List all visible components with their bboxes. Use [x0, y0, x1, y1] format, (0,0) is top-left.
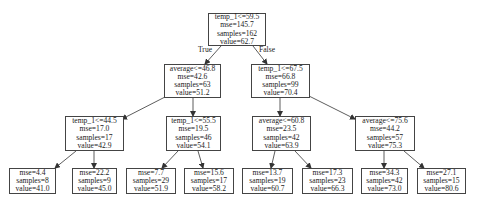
edge-label-true: True: [198, 45, 212, 54]
node-value: value=75.3: [368, 142, 402, 150]
node-value: value=60.7: [250, 185, 284, 193]
node-value: value=54.1: [176, 142, 210, 150]
tree-node-leaf: mse=7.7samples=29value=51.9: [126, 168, 176, 194]
node-value: value=73.0: [367, 185, 401, 193]
tree-node-split: average<=60.8mse=23.5samples=42value=63.…: [252, 116, 311, 151]
node-value: value=51.9: [134, 185, 168, 193]
node-value: value=66.3: [310, 185, 344, 193]
tree-node-leaf: mse=17.3samples=23value=66.3: [302, 168, 353, 194]
node-value: value=58.2: [192, 185, 226, 193]
tree-node-split: temp_1<=55.5mse=19.5samples=46value=54.1: [166, 116, 221, 151]
tree-node-leaf: mse=34.3samples=42value=73.0: [361, 168, 408, 194]
node-value: value=41.0: [15, 185, 49, 193]
tree-node-leaf: mse=4.4samples=8value=41.0: [9, 168, 56, 194]
tree-edge-n5-n11: [271, 151, 275, 168]
tree-edge-n3-n7: [55, 151, 76, 168]
tree-node-leaf: mse=22.2samples=9value=45.0: [72, 168, 117, 194]
node-value: value=70.4: [263, 89, 297, 97]
node-value: value=51.2: [175, 89, 209, 97]
node-value: value=45.0: [77, 185, 111, 193]
tree-edge-n5-n12: [295, 151, 311, 168]
tree-node-leaf: mse=27.1samples=15value=80.6: [417, 168, 466, 194]
tree-edge-n6-n14: [404, 151, 424, 168]
tree-node-split: temp_1<=44.5mse=17.0samples=17value=42.9: [65, 116, 124, 151]
tree-node-split: temp_1<=67.5mse=66.8samples=99value=70.4: [251, 64, 310, 98]
edge-label-false: False: [259, 45, 275, 54]
tree-edge-n2-n6: [309, 96, 355, 119]
node-value: value=63.9: [264, 142, 298, 150]
node-value: value=62.7: [220, 38, 254, 46]
node-value: value=42.9: [77, 142, 111, 150]
tree-node-leaf: mse=13.7samples=19value=60.7: [242, 168, 293, 194]
tree-node-split: average<=46.8mse=42.6samples=63value=51.…: [164, 64, 221, 98]
tree-edge-n1-n3: [122, 97, 165, 119]
tree-node-leaf: mse=15.6samples=17value=58.2: [184, 168, 234, 194]
tree-edge-n4-n10: [198, 151, 203, 168]
tree-node-split: average<=75.6mse=44.2samples=57value=75.…: [355, 116, 415, 151]
tree-edge-n4-n9: [162, 151, 178, 168]
node-value: value=80.6: [424, 185, 458, 193]
tree-node-split: temp_1<=59.5mse=145.7samples=162value=62…: [208, 13, 266, 46]
